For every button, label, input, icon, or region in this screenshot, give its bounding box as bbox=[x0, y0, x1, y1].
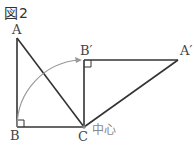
segment-ac bbox=[17, 38, 84, 127]
label-center: 中心 bbox=[92, 124, 116, 136]
segment-c-a-prime bbox=[84, 60, 178, 127]
label-b-prime: B′ bbox=[80, 44, 93, 57]
label-a: A bbox=[12, 23, 21, 36]
right-angle-b-icon bbox=[17, 120, 24, 127]
right-angle-b-prime-icon bbox=[84, 60, 91, 67]
label-b: B bbox=[10, 129, 20, 142]
label-a-prime: A′ bbox=[180, 44, 192, 57]
label-c: C bbox=[78, 130, 88, 143]
rotation-arc bbox=[17, 60, 79, 127]
